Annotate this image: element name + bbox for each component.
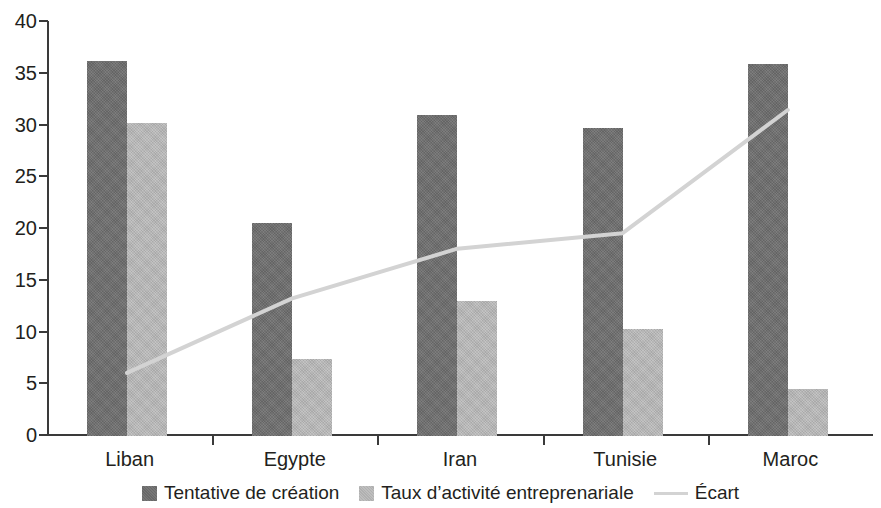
y-axis-tick (39, 382, 48, 384)
y-axis-tick-label: 15 (15, 270, 37, 290)
bar-liban-tentative (87, 61, 127, 436)
bar-liban-taux (127, 123, 167, 436)
bar-maroc-taux (788, 389, 828, 436)
y-axis-tick (39, 434, 48, 436)
y-axis-labels: 4035302520151050 (0, 14, 37, 442)
y-axis-tick (39, 175, 48, 177)
y-axis-tick (39, 72, 48, 74)
y-axis-tick (39, 331, 48, 333)
y-axis-tick-label: 5 (26, 373, 37, 393)
legend-item-0[interactable]: Tentative de création (142, 481, 339, 505)
legend-label: Écart (695, 481, 739, 505)
plot-area (47, 14, 873, 442)
chart-legend: Tentative de créationTaux d’activité ent… (0, 478, 881, 508)
x-axis-tick (708, 434, 710, 445)
y-axis-tick-label: 30 (15, 115, 37, 135)
legend-item-2[interactable]: Écart (654, 481, 739, 505)
legend-swatch-icon (359, 486, 374, 501)
x-axis-label-iran: Iran (377, 446, 542, 472)
x-axis-label-maroc: Maroc (708, 446, 873, 472)
x-axis-tick (212, 434, 214, 445)
y-axis-tick-label: 25 (15, 166, 37, 186)
legend-item-1[interactable]: Taux d’activité entreprenariale (359, 481, 633, 505)
bar-iran-tentative (417, 115, 457, 436)
chart-container: 4035302520151050 LibanEgypteIranTunisieM… (0, 0, 881, 508)
y-axis-tick-label: 35 (15, 63, 37, 83)
legend-label: Tentative de création (164, 481, 339, 505)
bar-iran-taux (457, 301, 497, 436)
bar-egypte-taux (292, 359, 332, 436)
y-axis-tick (39, 279, 48, 281)
x-axis-tick (543, 434, 545, 445)
y-axis-tick-label: 20 (15, 218, 37, 238)
bar-maroc-tentative (748, 64, 788, 436)
legend-label: Taux d’activité entreprenariale (381, 481, 633, 505)
x-axis-label-liban: Liban (47, 446, 212, 472)
y-axis-tick-label: 0 (26, 425, 37, 445)
y-axis-tick (39, 124, 48, 126)
x-axis-category-labels: LibanEgypteIranTunisieMaroc (47, 446, 873, 474)
x-axis-label-tunisie: Tunisie (543, 446, 708, 472)
x-axis-tick (377, 434, 379, 445)
bar-tunisie-taux (623, 329, 663, 436)
y-axis-tick (39, 227, 48, 229)
y-axis-tick (39, 20, 48, 22)
bar-tunisie-tentative (583, 128, 623, 436)
legend-swatch-icon (142, 486, 157, 501)
bar-egypte-tentative (252, 223, 292, 436)
legend-line-marker-icon (654, 492, 688, 495)
y-axis-tick-label: 10 (15, 322, 37, 342)
x-axis-label-egypte: Egypte (212, 446, 377, 472)
y-axis-tick-label: 40 (15, 11, 37, 31)
